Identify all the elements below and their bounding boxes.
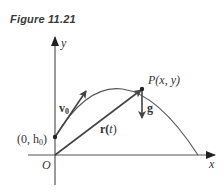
origin-label: O xyxy=(42,158,51,172)
trajectory-curve xyxy=(55,89,198,155)
projectile-diagram: y x O (0, h0) v0 r(t) P(x, y) g xyxy=(0,0,224,195)
position-vector xyxy=(55,90,141,155)
initial-point-dot xyxy=(53,135,57,139)
position-vector-label: r(t) xyxy=(100,122,117,136)
initial-point-label: (0, h0) xyxy=(17,132,47,147)
x-axis-label: x xyxy=(208,157,215,171)
point-p-label: P(x, y) xyxy=(147,73,180,87)
velocity-label: v0 xyxy=(59,101,69,116)
y-axis-label: y xyxy=(60,36,67,50)
gravity-label: g xyxy=(147,101,153,115)
point-p-dot xyxy=(140,87,144,91)
